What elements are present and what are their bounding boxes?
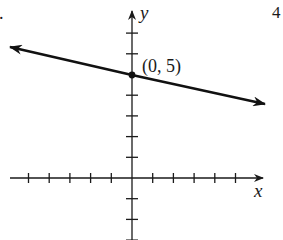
problem-number-dot: . — [0, 3, 4, 23]
y-axis: y — [126, 2, 149, 240]
coordinate-graph: . 4 x y (0, 5) — [0, 0, 283, 240]
x-axis: x — [10, 173, 263, 201]
x-axis-label: x — [253, 180, 263, 201]
y-intercept-label: (0, 5) — [142, 56, 181, 77]
y-axis-label: y — [138, 2, 149, 23]
y-intercept-point — [129, 72, 136, 79]
next-problem-number: 4 — [272, 3, 281, 22]
